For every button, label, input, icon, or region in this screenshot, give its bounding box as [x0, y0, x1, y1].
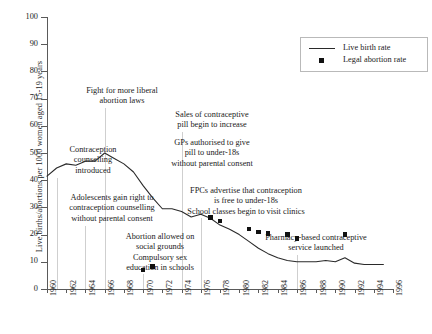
abortion-rate-marker-1981 — [247, 227, 252, 232]
abortion-rate-marker-1978 — [218, 219, 223, 224]
legend-line-swatch — [309, 48, 335, 49]
legend-square-swatch — [319, 58, 324, 63]
abortion-rate-marker-1977 — [208, 215, 213, 220]
abortion-rate-marker-1991 — [343, 232, 348, 237]
chart-figure: Live births/abortions per 1000 women age… — [0, 0, 432, 334]
abortion-rate-marker-1985 — [285, 232, 290, 237]
abortion-rate-marker-1986 — [295, 236, 300, 241]
abortion-rate-marker-1982 — [256, 230, 261, 235]
chart-legend: Live birth rate Legal abortion rate — [300, 37, 428, 72]
legend-label-legal-abortion-rate: Legal abortion rate — [343, 55, 406, 65]
abortion-rate-marker-1983 — [266, 231, 271, 236]
abortion-rate-marker-1970 — [141, 268, 146, 273]
abortion-rate-marker-1971 — [150, 264, 155, 269]
legend-label-live-birth-rate: Live birth rate — [343, 43, 390, 53]
